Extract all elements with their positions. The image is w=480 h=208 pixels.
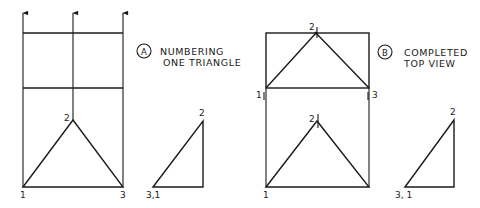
side-view-triangle	[405, 120, 454, 187]
technical-drawing: 1 2 3 2 3,1 A NUMBERING ONE TRIANGLE 2 1…	[0, 0, 480, 208]
top-vertex-label-3: 3	[372, 90, 378, 100]
caption-b-line2: TOP VIEW	[403, 58, 456, 69]
caption-b-line1: COMPLETED	[404, 47, 468, 58]
side-vertex-label-3-1: 3,1	[146, 190, 160, 200]
side-vertex-label-2: 2	[450, 107, 456, 117]
vertex-label-1: 1	[20, 190, 26, 200]
vertex-label-3: 3	[120, 190, 126, 200]
vertex-label-2: 2	[64, 113, 70, 123]
badge-b: B	[382, 48, 388, 58]
caption-a-line1: NUMBERING	[160, 46, 224, 57]
front-view-triangle	[23, 120, 123, 187]
figure-b: 2 1 3 2 1 2 3, 1 B COMPLETED TOP VIEW	[256, 22, 468, 200]
side-view-triangle	[153, 121, 203, 187]
front-vertex-label-1: 1	[263, 190, 269, 200]
top-vertex-label-2: 2	[309, 22, 315, 32]
figure-a: 1 2 3 2 3,1 A NUMBERING ONE TRIANGLE	[20, 13, 241, 200]
top-view-triangle	[266, 33, 369, 88]
side-vertex-label-3-1: 3, 1	[395, 190, 412, 200]
side-vertex-label-2: 2	[199, 108, 205, 118]
caption-a-line2: ONE TRIANGLE	[163, 57, 241, 68]
front-view-triangle	[266, 121, 369, 187]
top-view-box	[266, 33, 369, 88]
front-vertex-label-2: 2	[309, 114, 315, 124]
badge-a: A	[141, 47, 147, 57]
top-vertex-label-1: 1	[256, 90, 262, 100]
